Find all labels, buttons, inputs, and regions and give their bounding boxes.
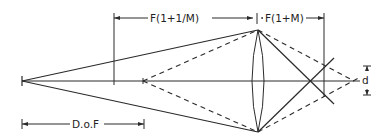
arrow-head <box>22 122 28 126</box>
solid-ray-top-left <box>22 30 258 81</box>
dashed-ray-top-left <box>143 30 258 81</box>
image-distance-label: F(1+M) <box>263 12 306 24</box>
blur-diameter-label: d <box>361 74 370 86</box>
depth-of-field-label: D.o.F <box>70 118 101 130</box>
arrow-head <box>365 90 369 95</box>
arrow-head <box>365 66 369 71</box>
solid-ray-bottom-right <box>258 58 334 132</box>
dashed-ray-bottom-left <box>143 81 258 132</box>
arrow-head <box>318 16 324 20</box>
arrow-head <box>114 16 120 20</box>
solid-ray-top-right <box>258 30 334 104</box>
depth-of-field-diagram: F(1+1/M) F(1+M) D.o.F d <box>0 0 388 138</box>
arrow-head <box>247 16 253 20</box>
dashed-ray-top-right <box>258 30 354 81</box>
arrow-head <box>138 122 144 126</box>
object-distance-label: F(1+1/M) <box>148 12 201 24</box>
